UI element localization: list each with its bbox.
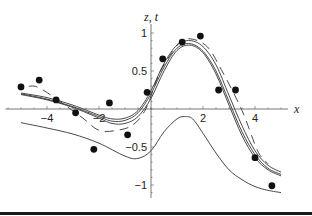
data-point bbox=[144, 89, 151, 96]
x-axis-label: x bbox=[293, 102, 300, 116]
y-tick-label: −0.5 bbox=[125, 141, 147, 153]
y-tick-label: 1 bbox=[141, 27, 147, 39]
x-tick-label: −2 bbox=[93, 112, 106, 124]
y-tick-label: 0.5 bbox=[132, 65, 147, 77]
y-axis-label: z, t bbox=[143, 10, 159, 24]
data-point bbox=[18, 84, 25, 91]
data-points bbox=[18, 33, 276, 190]
chart: −4−22410.5−0.5−1xz, t bbox=[0, 0, 312, 216]
data-point bbox=[106, 100, 113, 107]
x-tick-label: 4 bbox=[252, 112, 258, 124]
x-tick-label: −4 bbox=[41, 112, 54, 124]
y-tick-label: −1 bbox=[134, 179, 147, 191]
data-point bbox=[215, 87, 222, 94]
dashed-curve-line bbox=[29, 39, 268, 164]
data-point bbox=[72, 109, 79, 116]
data-point bbox=[90, 146, 97, 153]
data-point bbox=[36, 77, 43, 84]
data-point bbox=[197, 33, 204, 40]
axes bbox=[5, 24, 288, 198]
bottom-rule bbox=[0, 212, 312, 215]
data-point bbox=[179, 39, 186, 46]
data-point bbox=[232, 87, 239, 94]
data-point bbox=[53, 96, 60, 103]
data-point bbox=[124, 131, 131, 138]
data-point bbox=[159, 55, 166, 62]
data-point bbox=[252, 154, 259, 161]
x-tick-label: 2 bbox=[200, 112, 206, 124]
data-point bbox=[269, 182, 276, 189]
